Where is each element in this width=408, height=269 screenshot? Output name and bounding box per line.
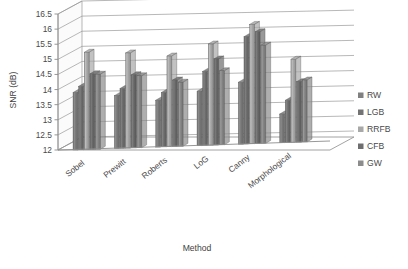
bar <box>178 79 188 146</box>
x-category-label: Morphological <box>246 150 293 190</box>
y-tick-label: 14 <box>43 85 53 95</box>
legend-label: RRFB <box>367 124 391 134</box>
chart-container: 16.51615.51514.51413.51312.512 SobelPrew… <box>0 0 408 269</box>
y-tick-labels: 16.51615.51514.51413.51312.512 <box>36 9 53 155</box>
x-category-label: LoG <box>192 153 211 171</box>
bar <box>137 73 147 148</box>
x-axis-title: Method <box>183 243 212 253</box>
x-category-labels: SobelPrewittRobertsLoGCannyMorphological <box>63 150 293 190</box>
y-tick-label: 12.5 <box>36 130 53 140</box>
bar <box>302 77 312 142</box>
y-tick-label: 15 <box>43 54 53 64</box>
legend-swatch <box>358 127 364 133</box>
legend-label: CFB <box>367 141 384 151</box>
x-category-label: Roberts <box>140 155 169 181</box>
bar-series-group <box>73 21 312 150</box>
y-tick-label: 15.5 <box>36 39 53 49</box>
legend-swatch <box>358 144 364 150</box>
legend-label: LGB <box>367 107 384 117</box>
legend-item[interactable]: RRFB <box>358 124 391 134</box>
legend-swatch <box>358 93 364 99</box>
x-category-label: Canny <box>226 151 252 174</box>
bar <box>95 71 105 149</box>
y-tick-label: 16 <box>43 24 53 34</box>
legend-label: RW <box>367 90 382 100</box>
y-axis-title: SNR (dB) <box>8 71 18 108</box>
x-category-label: Prewitt <box>101 156 128 180</box>
bar <box>219 68 229 145</box>
legend-item[interactable]: CFB <box>358 141 384 151</box>
y-tick-label: 16.5 <box>36 9 53 19</box>
legend-label: GW <box>367 158 383 168</box>
legend: RWLGBRRFBCFBGW <box>358 90 391 168</box>
y-tick-label: 12 <box>43 145 53 155</box>
y-tick-label: 14.5 <box>36 69 53 79</box>
legend-item[interactable]: RW <box>358 90 382 100</box>
bar-chart-3d: 16.51615.51514.51413.51312.512 SobelPrew… <box>0 0 408 269</box>
legend-swatch <box>358 161 364 167</box>
x-category-label: Sobel <box>63 158 86 179</box>
legend-item[interactable]: LGB <box>358 107 384 117</box>
legend-swatch <box>358 110 364 116</box>
bar <box>261 42 271 143</box>
y-tick-label: 13 <box>43 115 53 125</box>
y-tick-label: 13.5 <box>36 100 53 110</box>
legend-item[interactable]: GW <box>358 158 383 168</box>
